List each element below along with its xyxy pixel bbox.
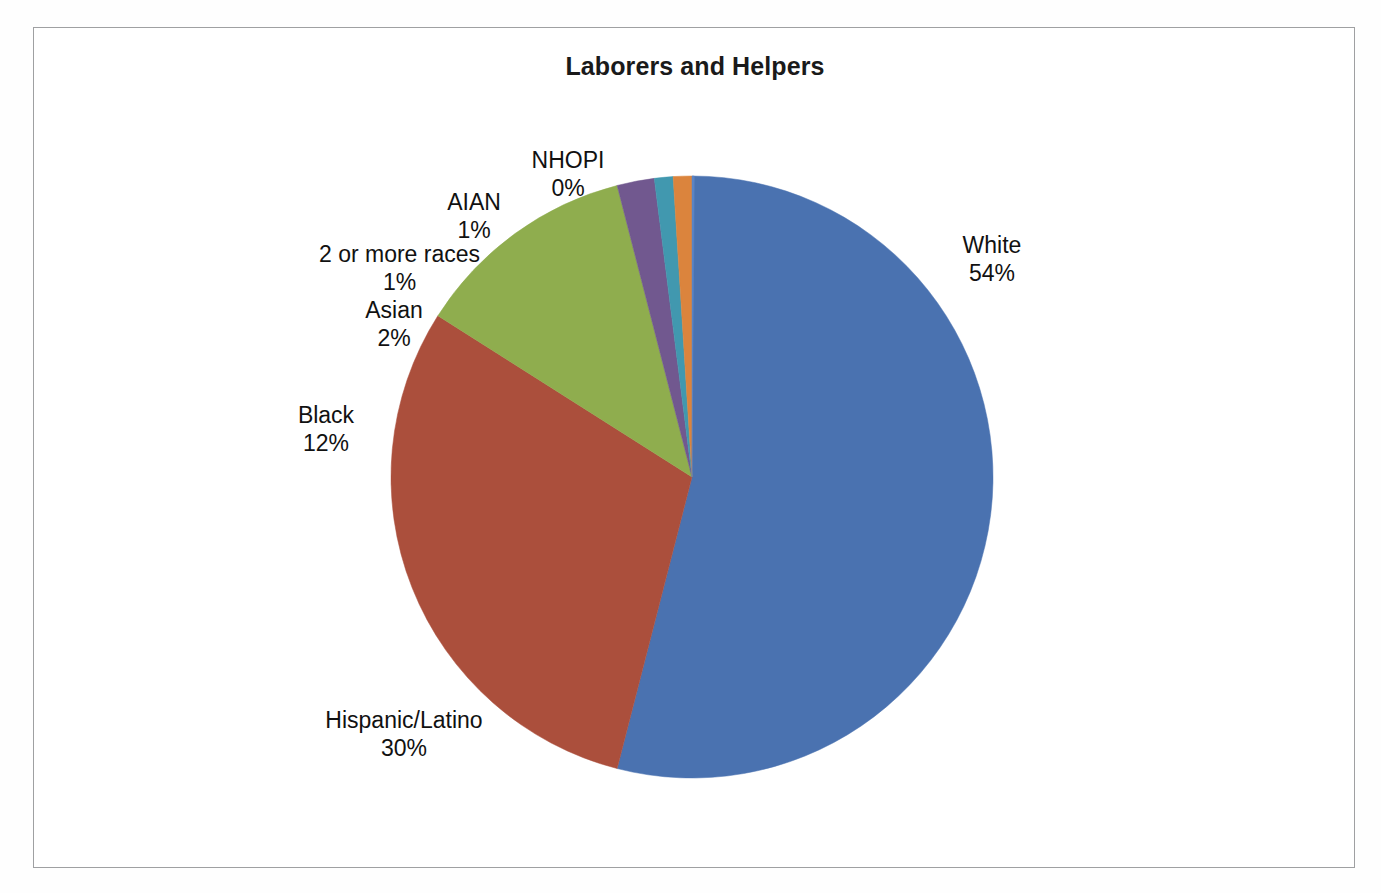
- pie-svg: [34, 28, 1356, 867]
- pie-label-white-name: White: [922, 231, 1062, 259]
- pie-label-white: White 54%: [922, 231, 1062, 287]
- pie-label-two-or-more-races-value: 1%: [292, 268, 507, 296]
- pie-label-hispanic-latino: Hispanic/Latino 30%: [279, 706, 529, 762]
- pie-label-hispanic-latino-value: 30%: [279, 734, 529, 762]
- chart-page: Laborers and Helpers: [0, 0, 1381, 893]
- pie-label-black-value: 12%: [256, 429, 396, 457]
- pie-label-nhopi-name: NHOPI: [508, 146, 628, 174]
- pie-label-asian-name: Asian: [334, 296, 454, 324]
- pie-label-black-name: Black: [256, 401, 396, 429]
- pie-label-asian: Asian 2%: [334, 296, 454, 352]
- chart-frame: Laborers and Helpers: [33, 27, 1355, 868]
- pie-chart: NHOPI 0% AIAN 1% 2 or more races 1% Asia…: [34, 28, 1356, 867]
- pie-label-black: Black 12%: [256, 401, 396, 457]
- pie-label-two-or-more-races: 2 or more races 1%: [292, 240, 507, 296]
- pie-label-hispanic-latino-name: Hispanic/Latino: [279, 706, 529, 734]
- pie-label-aian-name: AIAN: [414, 188, 534, 216]
- pie-label-aian: AIAN 1%: [414, 188, 534, 244]
- pie-label-two-or-more-races-name: 2 or more races: [292, 240, 507, 268]
- pie-label-asian-value: 2%: [334, 324, 454, 352]
- pie-label-white-value: 54%: [922, 259, 1062, 287]
